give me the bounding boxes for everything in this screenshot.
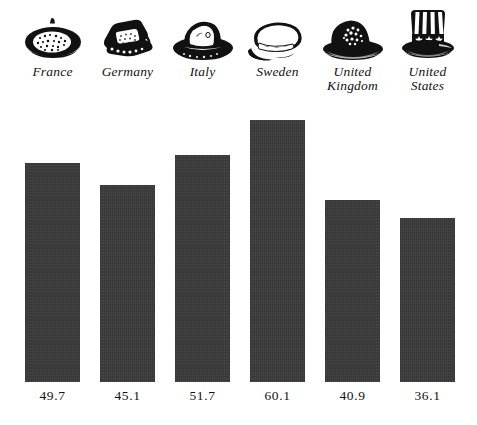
bar-united-states	[400, 218, 455, 382]
country-label: Germany	[102, 65, 154, 79]
bar-france	[25, 163, 80, 382]
country-label: United Kingdom	[327, 65, 378, 93]
country-column-united-kingdom: United Kingdom	[315, 0, 390, 93]
bar-column-united-states	[400, 218, 455, 382]
bar-italy	[175, 155, 230, 382]
value-label-united-kingdom: 40.9	[315, 388, 390, 404]
fedora-icon	[165, 0, 240, 62]
student-cap-icon	[240, 0, 315, 62]
value-label-sweden: 60.1	[240, 388, 315, 404]
beret-icon	[15, 0, 90, 62]
country-label: Sweden	[256, 65, 298, 79]
value-label-france: 49.7	[15, 388, 90, 404]
tyrolean-hat-icon	[90, 0, 165, 62]
plot-area	[0, 112, 477, 382]
country-column-italy: Italy	[165, 0, 240, 79]
value-label-row: 49.7 45.1 51.7 60.1 40.9 36.1	[0, 382, 477, 412]
country-column-germany: Germany	[90, 0, 165, 79]
value-label-germany: 45.1	[90, 388, 165, 404]
bar-column-italy	[175, 155, 230, 382]
country-column-sweden: Sweden	[240, 0, 315, 79]
country-label: United States	[409, 65, 447, 93]
value-label-united-states: 36.1	[390, 388, 465, 404]
country-column-united-states: United States	[390, 0, 465, 93]
uncle-sam-top-hat-icon	[390, 0, 465, 62]
bowler-hat-icon	[315, 0, 390, 62]
country-icon-row: France	[0, 0, 477, 112]
bar-germany	[100, 185, 155, 382]
bar-sweden	[250, 120, 305, 382]
country-column-france: France	[15, 0, 90, 79]
country-label: Italy	[190, 65, 216, 79]
bar-column-united-kingdom	[325, 200, 380, 382]
country-label: France	[32, 65, 72, 79]
value-label-italy: 51.7	[165, 388, 240, 404]
bar-chart: France	[0, 0, 477, 425]
bar-column-sweden	[250, 120, 305, 382]
bar-united-kingdom	[325, 200, 380, 382]
bar-column-germany	[100, 185, 155, 382]
bar-column-france	[25, 163, 80, 382]
